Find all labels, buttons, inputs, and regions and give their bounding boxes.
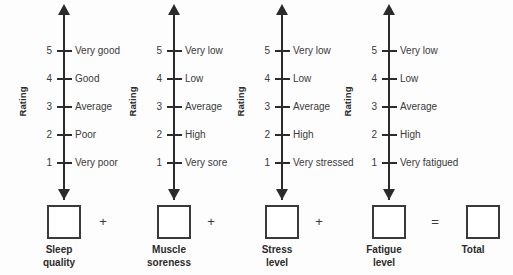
arrow-down-icon xyxy=(276,189,288,200)
tick-value: 1 xyxy=(258,156,270,170)
tick-mark-icon xyxy=(382,134,397,136)
tick-mark-icon xyxy=(57,78,72,80)
score-input-stress-level[interactable] xyxy=(265,205,299,239)
tick-row[interactable]: 2High xyxy=(234,128,354,142)
tick-value: 2 xyxy=(365,128,377,142)
caption-line: Stress xyxy=(222,243,332,256)
tick-value: 5 xyxy=(40,44,52,58)
arrow-up-icon xyxy=(383,4,395,15)
tick-row[interactable]: 5Very good xyxy=(16,44,136,58)
equals-sign: = xyxy=(424,211,446,233)
plus-sign-1: + xyxy=(92,211,114,233)
tick-value: 1 xyxy=(365,156,377,170)
tick-row[interactable]: 1Very sore xyxy=(126,156,246,170)
tick-mark-icon xyxy=(275,134,290,136)
tick-label: Average xyxy=(185,100,222,114)
tick-row[interactable]: 3Average xyxy=(126,100,246,114)
rating-scale-fatigue-level: Rating5Very low4Low3Average2High1Very fa… xyxy=(341,0,461,275)
tick-row[interactable]: 5Very low xyxy=(126,44,246,58)
caption-line: quality xyxy=(4,256,114,269)
tick-label: Low xyxy=(293,72,311,86)
tick-mark-icon xyxy=(275,162,290,164)
tick-mark-icon xyxy=(382,106,397,108)
tick-row[interactable]: 2High xyxy=(341,128,461,142)
tick-row[interactable]: 5Very low xyxy=(234,44,354,58)
tick-mark-icon xyxy=(275,106,290,108)
tick-label: Average xyxy=(75,100,112,114)
score-box-caption-muscle-soreness: Musclesoreness xyxy=(114,243,224,269)
tick-row[interactable]: 4Low xyxy=(234,72,354,86)
tick-row[interactable]: 3Average xyxy=(16,100,136,114)
tick-mark-icon xyxy=(57,106,72,108)
tick-label: Very good xyxy=(75,44,120,58)
tick-value: 1 xyxy=(40,156,52,170)
caption-line: Fatigue xyxy=(329,243,439,256)
score-box-caption-fatigue-level: Fatiguelevel xyxy=(329,243,439,269)
caption-line: Muscle xyxy=(114,243,224,256)
tick-value: 2 xyxy=(40,128,52,142)
tick-mark-icon xyxy=(167,134,182,136)
tick-row[interactable]: 3Average xyxy=(341,100,461,114)
tick-value: 5 xyxy=(258,44,270,58)
tick-value: 4 xyxy=(150,72,162,86)
tick-value: 3 xyxy=(150,100,162,114)
tick-value: 2 xyxy=(258,128,270,142)
tick-mark-icon xyxy=(275,50,290,52)
plus-sign-2: + xyxy=(200,211,222,233)
tick-value: 4 xyxy=(365,72,377,86)
tick-row[interactable]: 2High xyxy=(126,128,246,142)
score-box-caption-sleep-quality: Sleepquality xyxy=(4,243,114,269)
tick-value: 3 xyxy=(40,100,52,114)
tick-label: Poor xyxy=(75,128,96,142)
tick-label: Good xyxy=(75,72,99,86)
caption-line: Sleep xyxy=(4,243,114,256)
score-input-muscle-soreness[interactable] xyxy=(157,205,191,239)
tick-label: Very fatigued xyxy=(400,156,458,170)
tick-row[interactable]: 4Low xyxy=(126,72,246,86)
tick-value: 5 xyxy=(150,44,162,58)
arrow-up-icon xyxy=(58,4,70,15)
tick-label: Average xyxy=(400,100,437,114)
caption-line: soreness xyxy=(114,256,224,269)
score-input-total[interactable] xyxy=(466,205,500,239)
tick-value: 4 xyxy=(258,72,270,86)
tick-value: 1 xyxy=(150,156,162,170)
tick-row[interactable]: 4Good xyxy=(16,72,136,86)
tick-row[interactable]: 3Average xyxy=(234,100,354,114)
tick-mark-icon xyxy=(382,78,397,80)
tick-mark-icon xyxy=(167,50,182,52)
tick-label: Average xyxy=(293,100,330,114)
tick-row[interactable]: 1Very fatigued xyxy=(341,156,461,170)
tick-row[interactable]: 1Very poor xyxy=(16,156,136,170)
tick-value: 2 xyxy=(150,128,162,142)
score-input-sleep-quality[interactable] xyxy=(47,205,81,239)
tick-label: High xyxy=(185,128,206,142)
tick-mark-icon xyxy=(57,162,72,164)
tick-value: 3 xyxy=(365,100,377,114)
tick-mark-icon xyxy=(57,50,72,52)
score-box-caption-stress-level: Stresslevel xyxy=(222,243,332,269)
tick-row[interactable]: 1Very stressed xyxy=(234,156,354,170)
score-input-fatigue-level[interactable] xyxy=(372,205,406,239)
caption-line: Total xyxy=(433,243,513,256)
caption-line: level xyxy=(329,256,439,269)
arrow-up-icon xyxy=(168,4,180,15)
tick-row[interactable]: 2Poor xyxy=(16,128,136,142)
tick-value: 4 xyxy=(40,72,52,86)
tick-mark-icon xyxy=(57,134,72,136)
arrow-up-icon xyxy=(276,4,288,15)
tick-row[interactable]: 5Very low xyxy=(341,44,461,58)
score-box-caption-total: Total xyxy=(433,243,513,256)
tick-mark-icon xyxy=(167,106,182,108)
arrow-down-icon xyxy=(58,189,70,200)
tick-mark-icon xyxy=(382,50,397,52)
tick-label: Very sore xyxy=(185,156,227,170)
plus-sign-3: + xyxy=(308,211,330,233)
tick-row[interactable]: 4Low xyxy=(341,72,461,86)
tick-mark-icon xyxy=(167,162,182,164)
rating-scale-sleep-quality: Rating5Very good4Good3Average2Poor1Very … xyxy=(16,0,136,275)
tick-value: 5 xyxy=(365,44,377,58)
rating-scale-muscle-soreness: Rating5Very low4Low3Average2High1Very so… xyxy=(126,0,246,275)
tick-mark-icon xyxy=(167,78,182,80)
tick-label: Very poor xyxy=(75,156,118,170)
